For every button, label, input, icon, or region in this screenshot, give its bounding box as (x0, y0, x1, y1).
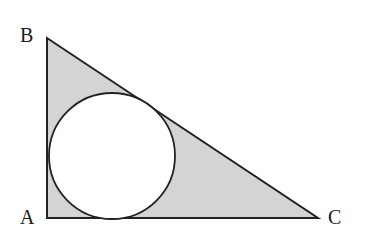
vertex-label-a: A (20, 206, 35, 228)
vertex-label-b: B (20, 24, 33, 46)
vertex-label-c: C (328, 206, 341, 228)
triangle-diagram: B A C (0, 0, 366, 240)
inscribed-circle (49, 93, 175, 219)
